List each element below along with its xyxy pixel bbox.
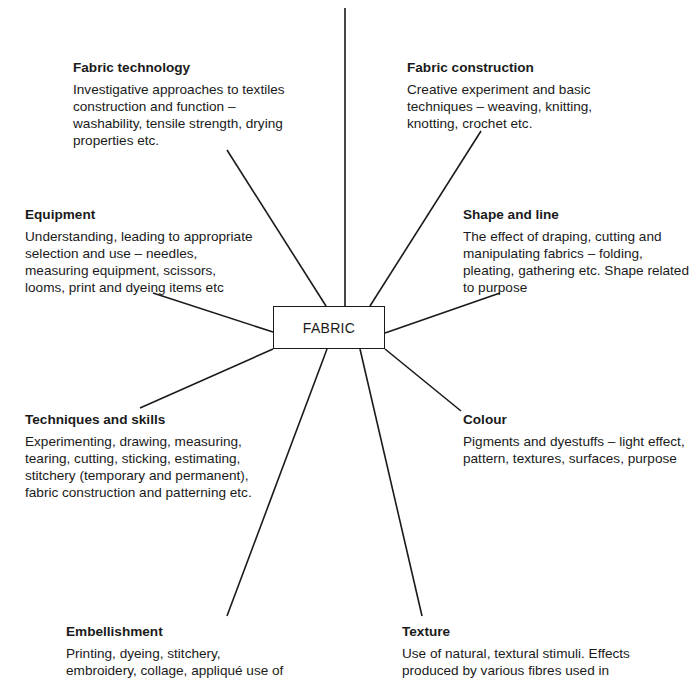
- node-body: Experimenting, drawing, measuring, teari…: [25, 433, 252, 501]
- node-colour: Colour Pigments and dyestuffs – light ef…: [463, 411, 685, 467]
- connector-shape-and-line: [385, 293, 500, 333]
- node-title: Techniques and skills: [25, 411, 252, 428]
- node-body: Pigments and dyestuffs – light effect, p…: [463, 433, 685, 467]
- node-title: Equipment: [25, 206, 252, 223]
- hub-label: FABRIC: [303, 320, 355, 336]
- node-title: Embellishment: [66, 623, 283, 640]
- node-title: Fabric construction: [407, 59, 592, 76]
- connector-techniques-and-skills: [140, 349, 273, 408]
- node-equipment: Equipment Understanding, leading to appr…: [25, 206, 252, 296]
- node-title: Shape and line: [463, 206, 689, 223]
- node-title: Colour: [463, 411, 685, 428]
- node-body: Investigative approaches to textiles con…: [73, 81, 285, 149]
- node-body: Printing, dyeing, stitchery, embroidery,…: [66, 645, 283, 679]
- node-shape-and-line: Shape and line The effect of draping, cu…: [463, 206, 689, 296]
- node-fabric-construction: Fabric construction Creative experiment …: [407, 59, 592, 132]
- node-fabric-technology: Fabric technology Investigative approach…: [73, 59, 285, 149]
- connector-colour: [385, 349, 461, 411]
- node-body: Use of natural, textural stimuli. Effect…: [402, 645, 630, 679]
- node-title: Fabric technology: [73, 59, 285, 76]
- node-texture: Texture Use of natural, textural stimuli…: [402, 623, 630, 679]
- connector-texture: [360, 349, 422, 616]
- connector-equipment: [153, 293, 273, 332]
- node-embellishment: Embellishment Printing, dyeing, stitcher…: [66, 623, 283, 679]
- node-body: The effect of draping, cutting and manip…: [463, 228, 689, 296]
- node-title: Texture: [402, 623, 630, 640]
- fabric-hub: FABRIC: [273, 306, 385, 349]
- node-body: Understanding, leading to appropriate se…: [25, 228, 252, 296]
- node-body: Creative experiment and basic techniques…: [407, 81, 592, 132]
- node-techniques-and-skills: Techniques and skills Experimenting, dra…: [25, 411, 252, 501]
